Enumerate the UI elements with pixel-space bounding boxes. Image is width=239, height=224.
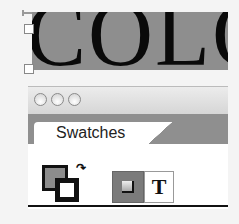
selection-handle[interactable]	[24, 24, 34, 34]
selected-text-frame[interactable]: COLO	[32, 12, 228, 70]
container-icon	[122, 181, 134, 193]
close-button[interactable]	[34, 93, 47, 106]
formatting-affects-text-button[interactable]: T	[144, 171, 174, 203]
minimize-button[interactable]	[51, 93, 64, 106]
selection-handle[interactable]	[24, 64, 34, 74]
stroke-color-box[interactable]	[55, 178, 79, 202]
zoom-button[interactable]	[68, 93, 81, 106]
formatting-affects-container-button[interactable]	[112, 171, 144, 203]
swatches-panel: Swatches ↷ T	[28, 86, 228, 209]
canvas-text: COLO	[32, 12, 228, 70]
panel-titlebar[interactable]	[28, 87, 228, 114]
tab-edge	[148, 122, 172, 144]
swap-fill-stroke-icon[interactable]: ↷	[76, 161, 86, 175]
selection-handle-line	[22, 12, 32, 14]
divider	[28, 205, 228, 207]
tab-swatches-label: Swatches	[56, 124, 125, 142]
